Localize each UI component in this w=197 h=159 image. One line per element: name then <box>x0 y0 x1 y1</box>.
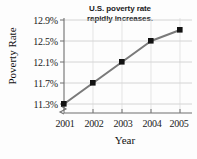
data-point-2001 <box>61 101 67 107</box>
data-point-2004 <box>148 38 154 44</box>
y-axis-line <box>60 18 64 110</box>
data-point-2003 <box>119 59 125 65</box>
data-point-2005 <box>177 27 183 33</box>
poverty-rate-line-chart: U.S. poverty rate rapidly increases. Pov… <box>0 0 197 159</box>
data-point-2002 <box>90 80 96 86</box>
plot-area <box>0 0 197 159</box>
x-axis-line <box>64 109 192 113</box>
vertical-gridlines <box>93 18 180 112</box>
